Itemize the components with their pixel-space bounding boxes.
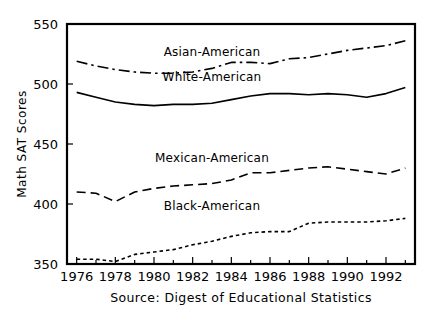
x-tick-label-1990: 1990	[331, 269, 364, 284]
series-line-white-american	[77, 88, 406, 106]
y-axis-title: Math SAT Scores	[15, 90, 29, 197]
x-tick-label-1986: 1986	[253, 269, 286, 284]
math-sat-scores-line-chart: 350400450500550 197619781980198219841986…	[0, 0, 436, 323]
series-inline-labels: Asian-AmericanWhite-AmericanMexican-Amer…	[155, 45, 269, 214]
y-tick-label-350: 350	[33, 257, 58, 272]
chart-container: 350400450500550 197619781980198219841986…	[0, 0, 436, 323]
x-tick-label-1976: 1976	[60, 269, 93, 284]
chart-caption: Source: Digest of Educational Statistics	[110, 290, 372, 305]
series-label-mexican-american: Mexican-American	[155, 151, 269, 165]
x-tick-label-1992: 1992	[369, 269, 402, 284]
y-axis-tick-labels: 350400450500550	[33, 17, 58, 272]
x-tick-label-1980: 1980	[137, 269, 170, 284]
y-tick-label-450: 450	[33, 137, 58, 152]
series-line-black-american	[77, 218, 406, 261]
x-tick-label-1978: 1978	[99, 269, 132, 284]
x-tick-label-1982: 1982	[176, 269, 209, 284]
plot-frame	[67, 24, 415, 264]
y-tick-label-400: 400	[33, 197, 58, 212]
series-label-black-american: Black-American	[164, 199, 260, 213]
series-label-asian-american: Asian-American	[164, 45, 261, 59]
series-label-white-american: White-American	[163, 70, 262, 84]
y-tick-label-550: 550	[33, 17, 58, 32]
x-tick-label-1988: 1988	[292, 269, 325, 284]
x-tick-label-1984: 1984	[215, 269, 248, 284]
y-tick-label-500: 500	[33, 77, 58, 92]
series-line-mexican-american	[77, 167, 406, 202]
x-axis-tick-labels: 197619781980198219841986198819901992	[60, 269, 402, 284]
